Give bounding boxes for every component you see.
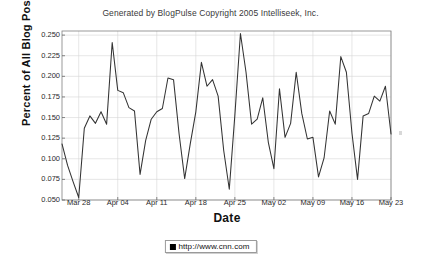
plot-area	[0, 0, 421, 273]
scan-artifact	[399, 131, 402, 135]
chart-container: Generated by BlogPulse Copyright 2005 In…	[0, 0, 421, 273]
legend-color-swatch-icon	[169, 244, 175, 250]
x-tick-label: May 23	[361, 198, 421, 207]
chart-legend[interactable]: http://www.cnn.com	[164, 240, 256, 253]
legend-series-label: http://www.cnn.com	[178, 242, 249, 251]
x-axis-label: Date	[62, 211, 392, 225]
x-axis-tick-labels: Mar 28Apr 04Apr 11Apr 18Apr 25May 02May …	[0, 198, 421, 212]
